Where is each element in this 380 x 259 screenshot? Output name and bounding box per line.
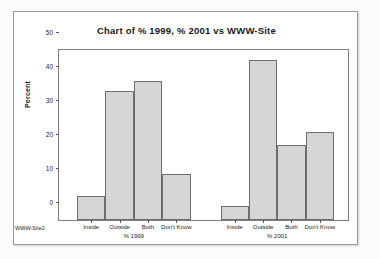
bar	[306, 132, 334, 220]
x-axis-corner-label: WWW-Site2	[15, 225, 45, 231]
bar	[277, 145, 305, 220]
y-axis-tick-mark	[56, 134, 59, 135]
y-axis-tick-mark	[56, 202, 59, 203]
y-axis-tick-label: 30	[46, 97, 53, 104]
y-axis-tick: 40	[46, 57, 59, 75]
plot-inner: 01020304050InsideOutsideBothDon't Know% …	[59, 50, 348, 220]
x-axis-group-label: % 2001	[267, 233, 287, 239]
bar	[105, 91, 133, 220]
x-axis-tick-mark	[291, 220, 292, 223]
y-axis-title: Percent	[24, 81, 31, 108]
x-axis-tick-mark	[320, 220, 321, 223]
x-axis-tick-mark	[91, 220, 92, 223]
x-axis-tick-label: Outside	[253, 224, 274, 230]
y-axis-tick: 30	[46, 91, 59, 109]
y-axis-tick: 50	[46, 23, 59, 41]
bar	[249, 60, 277, 220]
y-axis-tick-label: 50	[46, 29, 53, 36]
x-axis-tick-mark	[120, 220, 121, 223]
y-axis-tick: 0	[49, 193, 59, 211]
y-axis-tick: 20	[46, 125, 59, 143]
y-axis-tick-mark	[56, 32, 59, 33]
plot-area: 01020304050InsideOutsideBothDon't Know% …	[58, 49, 349, 221]
y-axis-tick-label: 20	[46, 131, 53, 138]
y-axis-tick: 10	[46, 159, 59, 177]
y-axis-tick-mark	[56, 66, 59, 67]
bar	[134, 81, 162, 220]
bar	[77, 196, 105, 220]
bar	[221, 206, 249, 220]
x-axis-tick-mark	[263, 220, 264, 223]
x-axis-tick-label: Both	[285, 224, 297, 230]
bar	[162, 174, 190, 220]
y-axis-tick-mark	[56, 168, 59, 169]
x-axis-tick-label: Inside	[83, 224, 99, 230]
x-axis-group-label: % 1999	[124, 233, 144, 239]
chart-frame: Chart of % 1999, % 2001 vs WWW-Site Perc…	[13, 11, 358, 245]
y-axis-tick-label: 40	[46, 63, 53, 70]
chart-page: Chart of % 1999, % 2001 vs WWW-Site Perc…	[0, 0, 380, 259]
x-axis-tick-label: Inside	[227, 224, 243, 230]
x-axis-tick-mark	[148, 220, 149, 223]
y-axis-tick-label: 0	[49, 199, 53, 206]
y-axis-tick-mark	[56, 100, 59, 101]
x-axis-tick-label: Outside	[109, 224, 130, 230]
x-axis-tick-mark	[176, 220, 177, 223]
chart-title: Chart of % 1999, % 2001 vs WWW-Site	[14, 25, 359, 36]
x-axis-tick-mark	[235, 220, 236, 223]
y-axis-tick-label: 10	[46, 165, 53, 172]
x-axis-tick-label: Both	[142, 224, 154, 230]
x-axis-tick-label: Don't Know	[161, 224, 192, 230]
x-axis-tick-label: Don't Know	[305, 224, 336, 230]
